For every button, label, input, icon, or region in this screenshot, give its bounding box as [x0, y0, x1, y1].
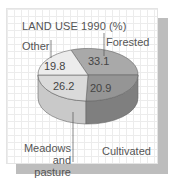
label-meadows-line2: and pasture — [15, 154, 71, 178]
label-forested: Forested — [106, 36, 149, 48]
label-meadows-line1: Meadows — [23, 142, 71, 154]
value-forested: 33.1 — [88, 55, 109, 67]
value-meadows: 26.2 — [53, 80, 74, 92]
label-cultivated: Cultivated — [102, 145, 151, 157]
value-cultivated: 20.9 — [90, 82, 111, 94]
value-other: 19.8 — [44, 60, 65, 72]
label-other: Other — [22, 40, 50, 52]
